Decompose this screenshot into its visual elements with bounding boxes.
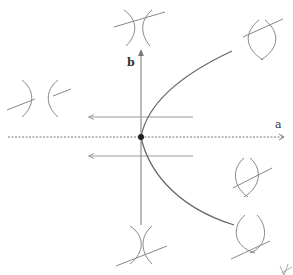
glyph-top-right-icon <box>243 19 283 60</box>
diagram-canvas <box>0 0 293 275</box>
bifurcation-curve-upper <box>141 51 232 137</box>
glyph-corner-partial-icon <box>280 264 292 275</box>
glyph-top-center-icon <box>114 10 165 46</box>
bifurcation-diagram: b a <box>0 0 293 275</box>
glyph-bottom-center-icon <box>116 226 167 266</box>
origin-point <box>138 134 144 140</box>
a-axis <box>8 134 284 140</box>
glyph-right-middle-icon <box>233 158 272 197</box>
bifurcation-curve-lower <box>141 137 234 225</box>
b-axis-label: b <box>127 57 135 68</box>
a-axis-label: a <box>275 119 282 130</box>
glyph-bottom-right-icon <box>231 215 270 259</box>
glyph-left-icon <box>7 80 71 117</box>
